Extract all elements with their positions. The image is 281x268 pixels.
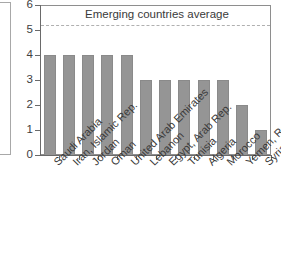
bar [44,55,56,155]
y-tick-label: 5 [0,24,33,36]
bar-chart: 0123456 Emerging countries average Saudi… [0,0,281,268]
y-tick-mark [35,5,40,6]
y-tick-label: 3 [0,74,33,86]
y-tick-mark [35,80,40,81]
emerging-countries-average-label: Emerging countries average [85,9,229,21]
y-tick-mark [35,30,40,31]
y-tick-label: 2 [0,99,33,111]
y-axis-line [40,5,41,156]
y-tick-mark [35,105,40,106]
emerging-countries-average-line [41,25,270,26]
y-tick-label: 6 [0,0,33,11]
y-tick-label: 0 [0,149,33,161]
y-tick-mark [35,130,40,131]
y-tick-mark [35,155,40,156]
y-tick-label: 1 [0,124,33,136]
y-tick-mark [35,55,40,56]
y-tick-label: 4 [0,49,33,61]
